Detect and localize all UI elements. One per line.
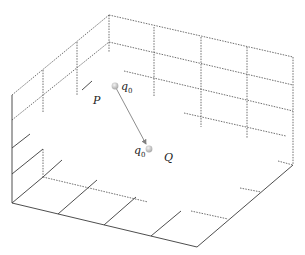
point-label-q: Q — [164, 151, 173, 164]
box-frame — [12, 95, 293, 247]
charge-at-q — [146, 146, 153, 153]
charge-label-top: q0 — [121, 80, 133, 95]
displacement-arrow — [116, 88, 146, 144]
point-label-p: P — [92, 94, 101, 107]
charge-label-bottom: q0 — [134, 144, 146, 159]
grid-floor — [12, 177, 261, 236]
box-diagram: q0 P q0 Q — [0, 0, 305, 255]
charge-at-p — [112, 83, 119, 90]
grid-back-wall — [109, 15, 293, 165]
